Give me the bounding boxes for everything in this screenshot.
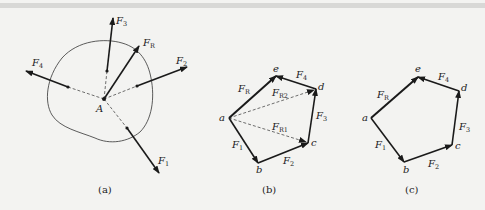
- background-text-line: [0, 3, 485, 8]
- label-f2: F2: [175, 55, 187, 68]
- point-a-dot: [102, 97, 106, 101]
- caption-b: (b): [262, 184, 276, 195]
- force-diagram: F3 FR F4 F2 F1 A (a) a b c d e F1 F2 F3 …: [0, 0, 485, 210]
- polygon-f3-cd: [308, 89, 316, 143]
- rigid-body-outline: [47, 41, 152, 142]
- f1-application-dot: [125, 126, 128, 129]
- vertex-b: b: [403, 164, 409, 175]
- label-fr: FR: [376, 89, 390, 102]
- caption-a: (a): [98, 184, 112, 195]
- label-f1: F1: [157, 155, 169, 168]
- label-f3: F3: [115, 15, 127, 28]
- vertex-b: b: [256, 164, 262, 175]
- label-f4: F4: [31, 57, 43, 70]
- force-f4-arrow: [26, 71, 68, 87]
- label-f2: F2: [282, 155, 294, 168]
- polygon-f3-cd: [452, 91, 459, 145]
- label-f4: F4: [295, 69, 307, 82]
- label-f3: F3: [315, 110, 327, 123]
- panel-a: F3 FR F4 F2 F1 A (a): [26, 15, 187, 195]
- vertex-c: c: [311, 137, 317, 148]
- vertex-e: e: [415, 63, 421, 74]
- vertex-e: e: [273, 63, 279, 74]
- f4-application-dot: [66, 85, 69, 88]
- force-f1-arrow: [127, 128, 159, 173]
- vertex-a: a: [219, 112, 225, 123]
- f2-application-dot: [135, 84, 138, 87]
- force-fr1-dashed: [229, 118, 306, 142]
- label-f1: F1: [374, 139, 386, 152]
- vertex-a: a: [362, 112, 368, 123]
- label-f2: F2: [427, 158, 439, 171]
- panel-b: a b c d e F1 F2 F3 F4 FR FR1 FR2 (b): [219, 63, 327, 195]
- label-f3: F3: [458, 121, 470, 134]
- label-fr: FR: [237, 83, 251, 96]
- caption-c: (c): [405, 184, 419, 195]
- vertex-d: d: [461, 82, 467, 93]
- f3-application-dot: [105, 69, 108, 72]
- label-fr: FR: [142, 37, 156, 50]
- label-f1: F1: [231, 139, 243, 152]
- panel-c: a b c d e F1 F2 F3 F4 FR (c): [362, 63, 470, 195]
- label-f4: F4: [437, 71, 449, 84]
- force-f2-arrow: [137, 67, 187, 86]
- label-point-a: A: [95, 103, 103, 114]
- force-f3-arrow: [107, 18, 113, 71]
- vertex-d: d: [318, 81, 324, 92]
- label-fr2: FR2: [271, 87, 288, 100]
- vertex-c: c: [455, 140, 461, 151]
- polygon-fr-ae: [229, 76, 276, 118]
